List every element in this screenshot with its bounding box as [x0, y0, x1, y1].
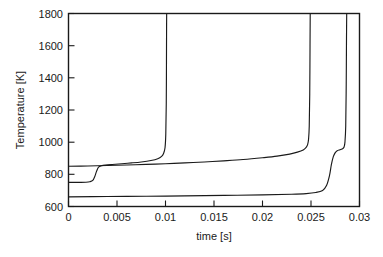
x-tick-label-0.025: 0.025 — [297, 211, 325, 223]
y-axis: 1800 1600 1400 1200 1000 800 600 Tempera… — [14, 8, 75, 213]
y-tick-group — [69, 14, 75, 207]
x-tick-label-0.015: 0.015 — [200, 211, 228, 223]
data-series-group — [69, 10, 347, 196]
x-tick-label-0.01: 0.01 — [155, 211, 176, 223]
x-tick-label-0.03: 0.03 — [349, 211, 370, 223]
y-tick-label-800: 800 — [45, 168, 63, 180]
y-tick-label-1600: 1600 — [39, 40, 63, 52]
curve-curve-2 — [69, 10, 311, 166]
curve-curve-1 — [69, 11, 167, 182]
y-tick-label-600: 600 — [45, 201, 63, 213]
x-tick-label-0.02: 0.02 — [252, 211, 273, 223]
x-axis-title: time [s] — [196, 230, 231, 242]
y-tick-label-1000: 1000 — [39, 136, 63, 148]
chart-figure: 1800 1600 1400 1200 1000 800 600 Tempera… — [0, 0, 383, 257]
x-tick-group — [69, 201, 360, 207]
y-axis-title: Temperature [K] — [14, 71, 26, 149]
y-tick-label-1200: 1200 — [39, 104, 63, 116]
curve-curve-3 — [69, 11, 347, 197]
temperature-vs-time-plot: 1800 1600 1400 1200 1000 800 600 Tempera… — [0, 0, 383, 257]
x-tick-label-0.005: 0.005 — [103, 211, 131, 223]
y-tick-label-1800: 1800 — [39, 8, 63, 20]
plot-frame — [69, 14, 360, 207]
y-tick-label-1400: 1400 — [39, 72, 63, 84]
x-tick-label-0: 0 — [65, 211, 71, 223]
